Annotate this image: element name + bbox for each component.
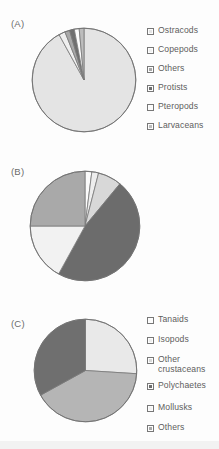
legend-swatch-pteropods <box>147 104 154 111</box>
panel-a-label: (A) <box>11 18 24 29</box>
legend-label-protists: Protists <box>158 82 187 92</box>
legend-swatch-protists <box>147 85 154 92</box>
pie-slice <box>30 171 85 226</box>
legend-item: Ostracods <box>147 25 203 44</box>
bottom-band <box>0 441 219 449</box>
legend-item: Larvaceans <box>147 120 203 139</box>
panel-b-label: (B) <box>11 166 24 177</box>
legend-swatch-larvaceans <box>147 123 154 130</box>
panel-a-pie <box>31 27 137 133</box>
pie-chart-figure: (A) Ostracods Copepods Others Protists <box>0 0 219 449</box>
panel-a-pie-svg <box>31 27 137 133</box>
legend-swatch-copepods <box>147 47 154 54</box>
panel-a: (A) Ostracods Copepods Others Protists <box>0 0 219 145</box>
panel-c-pie <box>33 318 138 423</box>
legend-swatch-ostracods <box>147 28 154 35</box>
panel-c-label: (C) <box>11 318 25 329</box>
legend-item: Others <box>147 63 203 82</box>
panel-b: (B) Tanaids Isopods Other crustaceans <box>0 145 219 305</box>
legend-label-ostracods: Ostracods <box>158 25 198 35</box>
panel-c: (C) Harpacticoida Acoela Nematoda <box>0 305 219 438</box>
legend-label-others-a: Others <box>158 63 184 73</box>
panel-b-pie-svg <box>29 170 141 282</box>
panel-c-pie-svg <box>33 318 138 423</box>
pie-slice <box>86 319 137 374</box>
legend-item: Protists <box>147 82 203 101</box>
legend-label-larvaceans: Larvaceans <box>158 120 203 130</box>
panel-a-legend: Ostracods Copepods Others Protists Ptero… <box>147 25 203 139</box>
legend-item: Copepods <box>147 44 203 63</box>
legend-swatch-others-a <box>147 66 154 73</box>
legend-label-pteropods: Pteropods <box>158 101 198 111</box>
legend-item: Pteropods <box>147 101 203 120</box>
panel-b-pie <box>29 170 141 282</box>
legend-label-copepods: Copepods <box>158 44 198 54</box>
